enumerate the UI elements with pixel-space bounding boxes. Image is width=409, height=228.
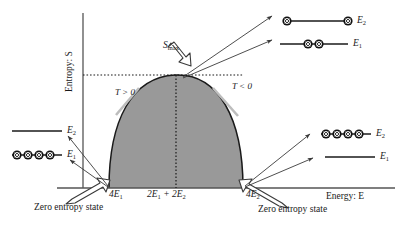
leader-arrow-top-to-E2 — [183, 16, 272, 77]
x-tick-left-sub: 1 — [120, 193, 123, 200]
particle-marker — [303, 39, 312, 48]
x-tick-center-sub2: 2 — [183, 193, 186, 200]
particle-marker — [23, 150, 32, 159]
level-label-sub: 2 — [363, 19, 366, 26]
particle-marker — [314, 39, 323, 48]
leader-arrow-left-to-E2 — [68, 136, 108, 186]
particle-marker — [354, 129, 363, 138]
level-label-sub: 1 — [73, 153, 76, 160]
level-top-right-E1 — [280, 39, 348, 48]
particle-marker — [34, 150, 43, 159]
level-label-bottom-left-E2: E2 — [67, 126, 76, 136]
particle-marker — [321, 129, 330, 138]
y-axis-title: Entropy: S — [65, 51, 75, 92]
particle-marker — [332, 129, 341, 138]
leader-arrow-top-to-E1 — [183, 40, 272, 78]
particle-marker — [45, 150, 54, 159]
temperature-negative-label: T < 0 — [232, 82, 252, 91]
level-label-sub: 1 — [359, 42, 362, 49]
level-label-bottom-right-E2: E2 — [376, 129, 385, 139]
leader-arrow-right-to-E2 — [245, 134, 310, 186]
level-label-sub: 2 — [73, 129, 76, 136]
level-label-sub: 2 — [382, 132, 385, 139]
level-label-top-right-E2: E2 — [357, 16, 366, 26]
level-label-sub: 1 — [386, 155, 389, 162]
smax-label: Smax — [163, 41, 179, 51]
level-label-top-right-E1: E1 — [353, 39, 362, 49]
zero-entropy-caption-right: Zero entropy state — [258, 205, 327, 215]
temperature-positive-label: T > 0 — [115, 88, 135, 97]
x-tick-left-main: 4E — [109, 189, 120, 199]
level-bottom-left-E1 — [12, 150, 62, 159]
x-tick-right-sub: 2 — [257, 193, 260, 200]
leader-arrow-right-to-E1 — [245, 158, 313, 187]
x-tick-right-main: 4E — [246, 189, 257, 199]
x-tick-label-left: 4E1 — [109, 190, 123, 200]
level-top-right-E2 — [282, 16, 352, 25]
x-tick-center-mid: + 2E — [161, 189, 183, 199]
level-bottom-right-E2 — [321, 129, 371, 138]
particle-marker — [343, 129, 352, 138]
zero-entropy-caption-left: Zero entropy state — [34, 203, 103, 213]
x-tick-label-center: 2E1 + 2E2 — [147, 190, 186, 200]
x-tick-center-main: 2E — [147, 189, 158, 199]
x-axis-title: Energy: E — [326, 192, 364, 202]
smax-sub: max — [168, 44, 179, 51]
x-tick-label-right: 4E2 — [246, 190, 260, 200]
level-label-bottom-right-E1: E1 — [380, 152, 389, 162]
particle-marker — [12, 150, 21, 159]
zero-entropy-left-block-arrow — [66, 178, 110, 204]
leader-arrow-left-to-E1 — [70, 160, 108, 187]
entropy-energy-diagram: Entropy: S Energy: E 4E1 2E1 + 2E2 4E2 S… — [0, 0, 409, 228]
particle-marker — [282, 16, 291, 25]
level-label-bottom-left-E1: E1 — [67, 150, 76, 160]
particle-marker — [343, 16, 352, 25]
